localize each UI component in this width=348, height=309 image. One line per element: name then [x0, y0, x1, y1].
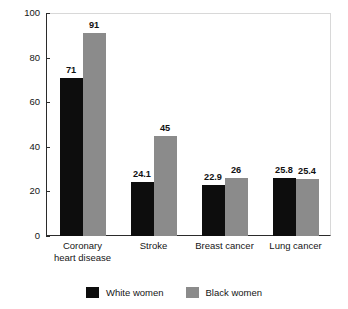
- y-tick-label: 80: [0, 52, 46, 64]
- y-tick-label: 0: [0, 230, 46, 242]
- legend-label: White women: [106, 287, 164, 298]
- bar-value-label: 26: [218, 165, 255, 176]
- x-category-label: Coronary heart disease: [47, 240, 118, 263]
- bar-white-women: [273, 178, 296, 236]
- bar-white-women: [202, 185, 225, 236]
- bar-black-women: [83, 33, 106, 236]
- legend-entry: White women: [86, 287, 164, 298]
- bar-value-label: 91: [76, 20, 113, 31]
- bar-black-women: [225, 178, 248, 236]
- bar-white-women: [60, 78, 83, 236]
- legend-label: Black women: [206, 287, 263, 298]
- bar-group: 22.926: [202, 13, 248, 236]
- x-category-label: Stroke: [118, 240, 189, 252]
- y-tick-mark: [46, 236, 50, 237]
- x-category-label: Lung cancer: [260, 240, 331, 252]
- bar-white-women: [131, 182, 154, 236]
- y-tick-value: 20: [29, 185, 46, 196]
- bar-value-label: 25.4: [289, 166, 326, 177]
- bar-black-women: [296, 179, 319, 236]
- bar-chart: Deaths per 100,000 020406080100 719124.1…: [0, 0, 348, 309]
- y-tick-value: 100: [24, 7, 46, 18]
- x-axis-labels: Coronary heart diseaseStrokeBreast cance…: [47, 240, 331, 268]
- bar-group: 7191: [60, 13, 106, 236]
- bar-group: 25.825.4: [273, 13, 319, 236]
- bars-layer: 719124.14522.92625.825.4: [47, 13, 331, 236]
- y-tick-value: 60: [29, 96, 46, 107]
- y-tick-label: 40: [0, 141, 46, 153]
- chart-legend: White womenBlack women: [0, 283, 348, 301]
- legend-entry: Black women: [186, 287, 263, 298]
- y-tick-value: 40: [29, 141, 46, 152]
- legend-swatch-black-women: [186, 287, 199, 298]
- y-tick-label: 20: [0, 185, 46, 197]
- bar-value-label: 45: [147, 123, 184, 134]
- bar-group: 24.145: [131, 13, 177, 236]
- x-category-label: Breast cancer: [189, 240, 260, 252]
- legend-swatch-white-women: [86, 287, 99, 298]
- y-tick-value: 80: [29, 52, 46, 63]
- y-tick-label: 100: [0, 7, 46, 19]
- y-tick-label: 60: [0, 96, 46, 108]
- bar-black-women: [154, 136, 177, 236]
- y-tick-value: 0: [35, 230, 46, 241]
